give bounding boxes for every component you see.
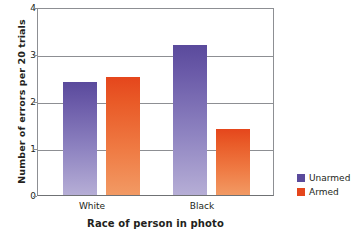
legend-swatch-armed-icon [297, 188, 305, 196]
legend: Unarmed Armed [297, 171, 352, 199]
x-tick-label-black: Black [172, 201, 232, 211]
bar-white-armed [106, 77, 140, 195]
legend-swatch-unarmed-icon [297, 174, 305, 182]
legend-item-unarmed: Unarmed [297, 171, 352, 185]
plot-area [37, 8, 274, 196]
y-tickmark-0 [33, 196, 37, 197]
bar-black-armed [216, 129, 250, 195]
gridline-3 [38, 56, 273, 57]
x-axis-title: Race of person in photo [37, 218, 274, 229]
bar-chart: 4 3 2 1 0 Number of errors per 20 trials… [0, 0, 352, 235]
legend-label-armed: Armed [309, 188, 339, 197]
bar-white-unarmed [63, 82, 97, 195]
y-axis-title: Number of errors per 20 trials [16, 17, 27, 187]
legend-label-unarmed: Unarmed [309, 174, 350, 183]
x-tick-label-white: White [62, 201, 122, 211]
bar-black-unarmed [173, 45, 207, 195]
legend-item-armed: Armed [297, 185, 352, 199]
